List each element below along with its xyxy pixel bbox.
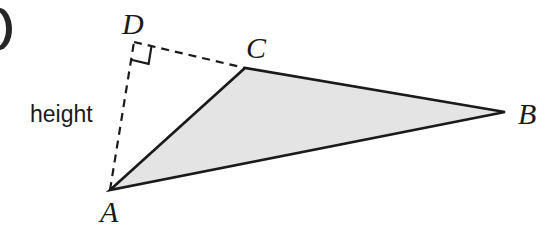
page-edge-crescent-icon — [0, 8, 12, 50]
right-angle-square-icon — [131, 46, 151, 64]
vertex-label-c: C — [246, 31, 267, 64]
vertex-label-d: D — [121, 7, 144, 40]
height-annotation-label: height — [30, 101, 93, 127]
vertex-label-b: B — [518, 97, 536, 130]
triangle-fill — [110, 68, 505, 190]
geometry-figure: D C B A height — [0, 0, 554, 227]
altitude-line-ad — [110, 42, 134, 190]
triangle-diagram-canvas: D C B A height — [0, 0, 554, 227]
vertex-label-a: A — [98, 195, 119, 227]
